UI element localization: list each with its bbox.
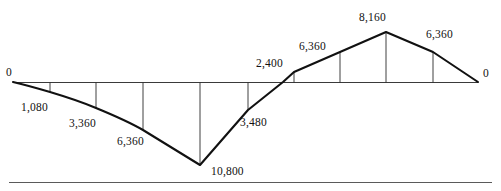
label-3480: 3,480 [240, 117, 267, 129]
label-zero-left: 0 [6, 67, 12, 79]
label-8160: 8,160 [359, 12, 386, 24]
bending-moment-figure: 0 1,080 3,360 6,360 10,800 3,480 2,400 6… [0, 0, 501, 191]
label-1080: 1,080 [21, 102, 48, 114]
label-6360-right: 6,360 [426, 29, 453, 41]
label-3360: 3,360 [69, 118, 96, 130]
label-10800: 10,800 [211, 166, 244, 178]
label-6360-mid: 6,360 [299, 41, 326, 53]
moment-curve [13, 32, 478, 165]
label-6360-left: 6,360 [117, 136, 144, 148]
label-2400: 2,400 [256, 58, 283, 70]
label-zero-right: 0 [483, 68, 489, 80]
ordinate-lines [50, 32, 433, 165]
